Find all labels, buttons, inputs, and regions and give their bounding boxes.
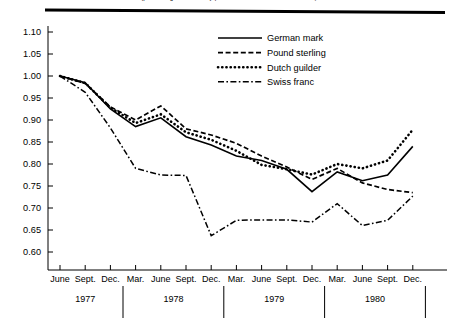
legend-label-swiss-franc: Swiss franc: [267, 77, 314, 87]
year-label: 1978: [163, 294, 183, 304]
x-tick-label: Mar.: [228, 274, 246, 284]
y-tick-label: 1.10: [23, 27, 41, 37]
y-tick-label: 0.80: [23, 159, 41, 169]
x-axis: JuneSept.Dec.Mar.JuneSept.Dec.Mar.JuneSe…: [48, 265, 447, 284]
top-rule: [45, 10, 445, 13]
data-series-group: [60, 76, 413, 236]
x-tick-label: Sept.: [175, 274, 196, 284]
series-line-dutch-guilder: [60, 76, 413, 175]
x-tick-label: Dec.: [404, 274, 423, 284]
chart-title-clipped: (percentage of currency per U.S. dollar,…: [0, 0, 458, 3]
x-tick-label: Sept.: [276, 274, 297, 284]
chart-canvas: 1.101.051.000.950.900.850.800.750.700.65…: [0, 0, 458, 324]
series-line-german-mark: [60, 76, 413, 192]
year-label: 1979: [264, 294, 284, 304]
x-tick-label: Sept.: [75, 274, 96, 284]
y-tick-label: 0.75: [23, 181, 41, 191]
legend-label-pound-sterling: Pound sterling: [267, 48, 326, 58]
series-line-pound-sterling: [60, 76, 413, 193]
x-tick-label: Dec.: [303, 274, 322, 284]
currency-index-chart: (percentage of currency per U.S. dollar,…: [0, 0, 458, 324]
legend-label-german-mark: German mark: [267, 33, 324, 43]
x-tick-label: June: [50, 274, 70, 284]
x-tick-label: Mar.: [328, 274, 346, 284]
year-label: 1977: [75, 294, 95, 304]
year-label: 1980: [365, 294, 385, 304]
chart-legend: German markPound sterlingDutch guilderSw…: [218, 33, 326, 87]
x-tick-label: Sept.: [377, 274, 398, 284]
x-tick-label: Dec.: [101, 274, 120, 284]
y-tick-label: 0.90: [23, 115, 41, 125]
y-tick-label: 0.65: [23, 225, 41, 235]
legend-label-dutch-guilder: Dutch guilder: [267, 63, 321, 73]
x-tick-label: June: [353, 274, 373, 284]
y-tick-label: 1.00: [23, 71, 41, 81]
year-axis: 1977197819791980: [75, 286, 425, 318]
y-tick-label: 0.70: [23, 203, 41, 213]
y-tick-label: 0.85: [23, 137, 41, 147]
x-tick-label: Dec.: [202, 274, 221, 284]
y-tick-label: 0.60: [23, 247, 41, 257]
y-tick-label: 0.95: [23, 93, 41, 103]
x-tick-label: June: [252, 274, 272, 284]
x-tick-label: Mar.: [127, 274, 145, 284]
y-tick-label: 1.05: [23, 49, 41, 59]
x-tick-label: June: [151, 274, 171, 284]
y-axis: 1.101.051.000.950.900.850.800.750.700.65…: [23, 26, 53, 270]
